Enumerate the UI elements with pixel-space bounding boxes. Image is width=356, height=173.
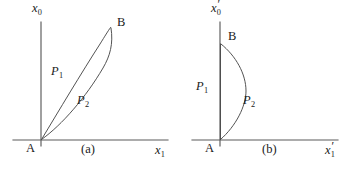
panel-b-x-axis-label: x1′ [325,144,338,157]
panel-b-caption: (b) [262,143,277,156]
panel-b-y-axis-label: x0′ [211,2,224,15]
panel-a-point-a-label: A [26,142,35,155]
panel-a-caption: (a) [81,143,95,156]
panel-a-group [13,22,168,146]
panel-a-curve-p1 [42,28,111,140]
panel-b-group [192,22,338,146]
panel-a-point-b-label: B [117,16,125,29]
panel-b-point-b-label: B [228,30,236,43]
figure-svg [0,0,356,173]
panel-b-curve-p2 [221,44,247,140]
panel-a-curve-p1-label: P1 [51,65,63,78]
panel-a-x-axis-label: x1 [155,144,165,157]
panel-b-point-a-label: A [205,142,214,155]
panel-a-curve-p2-label: P2 [77,94,89,107]
figure-container: x0 x1 A B P1 P2 (a) x0′ x1′ A B P1 P2 (b… [0,0,356,173]
panel-b-curve-p2-label: P2 [243,94,255,107]
panel-b-curve-p1-label: P1 [196,80,208,93]
panel-a-y-axis-label: x0 [32,2,42,15]
